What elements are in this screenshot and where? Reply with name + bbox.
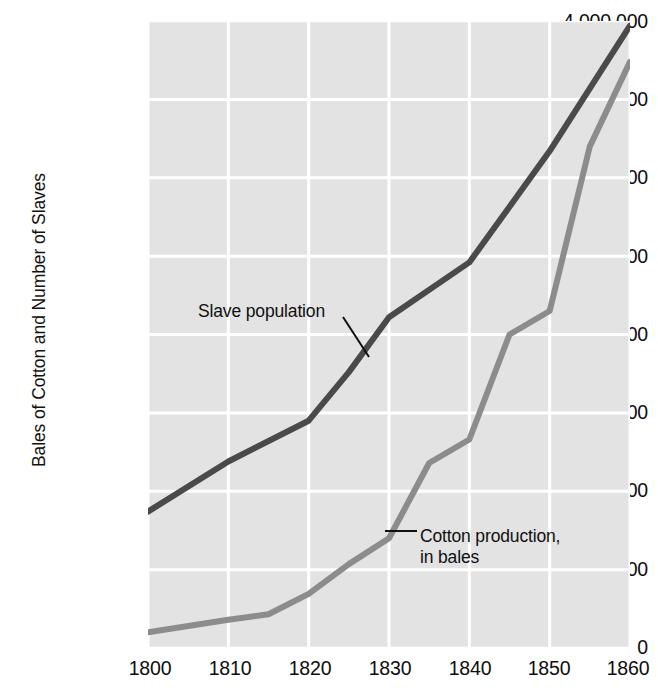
x-tick-label-1820: 1820 bbox=[270, 657, 350, 679]
x-tick-label-1850: 1850 bbox=[509, 657, 589, 679]
cotton-production-label-line1: Cotton production, bbox=[420, 526, 560, 546]
x-tick-label-1810: 1810 bbox=[190, 657, 270, 679]
x-tick-label-1860: 1860 bbox=[588, 657, 658, 679]
slave-population-label: Slave population bbox=[198, 301, 325, 322]
x-tick-label-1830: 1830 bbox=[350, 657, 430, 679]
x-tick-label-1800: 1800 bbox=[110, 657, 190, 679]
cotton-production-label-line2: in bales bbox=[420, 547, 479, 567]
x-tick-label-1840: 1840 bbox=[430, 657, 510, 679]
y-axis-title: Bales of Cotton and Number of Slaves bbox=[26, 0, 52, 640]
chart-figure: Bales of Cotton and Number of Slaves 4,0… bbox=[0, 0, 658, 692]
cotton-production-label: Cotton production,in bales bbox=[420, 526, 590, 568]
